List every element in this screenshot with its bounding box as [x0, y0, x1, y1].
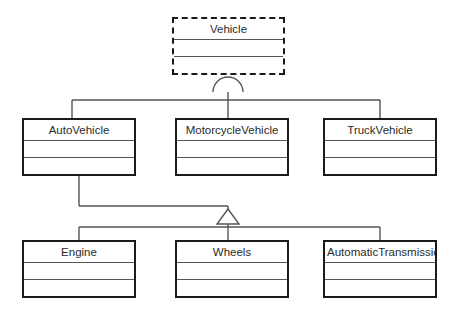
- arc-arrowhead-icon: [213, 77, 243, 92]
- uml-diagram-canvas: Vehicle AutoVehicle MotorcycleVehicle Tr…: [0, 0, 463, 320]
- class-box-engine[interactable]: Engine: [22, 240, 136, 298]
- class-name-truckvehicle: TruckVehicle: [325, 120, 435, 141]
- class-box-wheels[interactable]: Wheels: [175, 240, 289, 298]
- generalization-autovehicle: [79, 176, 380, 240]
- class-attributes-engine: [24, 263, 134, 280]
- class-name-autovehicle: AutoVehicle: [24, 120, 134, 141]
- class-operations-autovehicle: [24, 158, 134, 174]
- class-box-autovehicle[interactable]: AutoVehicle: [22, 118, 136, 176]
- class-box-vehicle[interactable]: Vehicle: [172, 17, 285, 75]
- class-operations-engine: [24, 280, 134, 296]
- class-box-truckvehicle[interactable]: TruckVehicle: [323, 118, 437, 176]
- class-attributes-autovehicle: [24, 141, 134, 158]
- class-operations-wheels: [177, 280, 287, 296]
- class-operations-vehicle: [174, 57, 283, 73]
- class-name-engine: Engine: [24, 242, 134, 263]
- class-attributes-truckvehicle: [325, 141, 435, 158]
- hollow-triangle-arrowhead-icon: [217, 209, 239, 224]
- class-operations-automatictransmission: [325, 280, 435, 296]
- class-attributes-vehicle: [174, 40, 283, 57]
- class-name-motorcyclevehicle: MotorcycleVehicle: [177, 120, 287, 141]
- class-operations-motorcyclevehicle: [177, 158, 287, 174]
- class-name-vehicle: Vehicle: [174, 19, 283, 40]
- class-name-automatictransmission: AutomaticTransmission: [325, 242, 435, 263]
- class-attributes-motorcyclevehicle: [177, 141, 287, 158]
- class-box-automatictransmission[interactable]: AutomaticTransmission: [323, 240, 437, 298]
- class-attributes-automatictransmission: [325, 263, 435, 280]
- class-operations-truckvehicle: [325, 158, 435, 174]
- class-attributes-wheels: [177, 263, 287, 280]
- class-name-wheels: Wheels: [177, 242, 287, 263]
- class-box-motorcyclevehicle[interactable]: MotorcycleVehicle: [175, 118, 289, 176]
- generalization-vehicle: [72, 77, 380, 118]
